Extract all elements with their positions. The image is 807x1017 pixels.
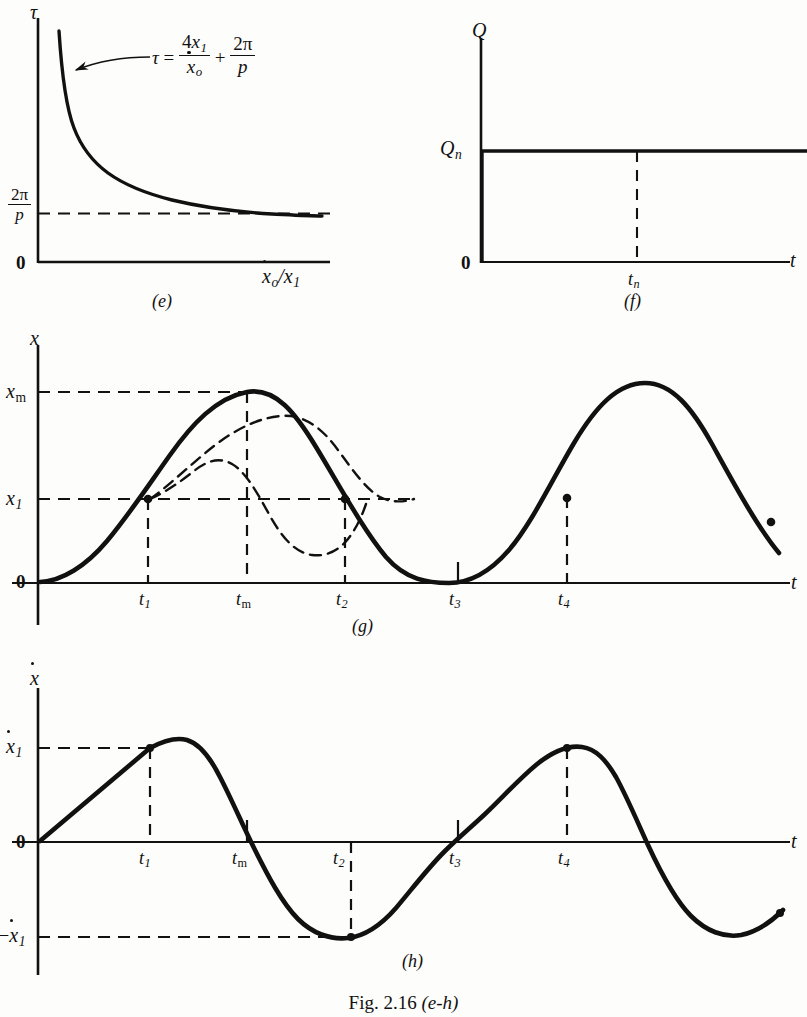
panel-f-step-curve bbox=[482, 151, 807, 262]
panel-g-marker-t2 bbox=[341, 495, 350, 504]
panel-g-xtick-t3: t3 bbox=[449, 590, 461, 611]
panel-g-marker-late bbox=[767, 518, 776, 527]
panel-h-ytick-xdot1: x1 bbox=[6, 736, 22, 759]
panel-g-main-curve bbox=[40, 383, 779, 583]
figure-caption: Fig. 2.16 (e-h) bbox=[0, 992, 807, 1014]
panel-e-caption: (e) bbox=[152, 292, 172, 310]
panel-f-x-axis-label: t bbox=[790, 250, 796, 270]
panel-e-annotation-arrow bbox=[76, 57, 150, 70]
panel-h-xtick-t2: t2 bbox=[333, 849, 345, 870]
panel-f-origin-label: 0 bbox=[461, 253, 471, 272]
panel-g-xtick-tm: tm bbox=[236, 590, 251, 611]
panel-h-marker-t4 bbox=[563, 744, 571, 752]
panel-e-ytick-two-pi-over-p: 2π p bbox=[8, 186, 31, 224]
panel-h-ytick-neg-xdot1: −x1 bbox=[0, 925, 25, 948]
panel-h-marker-t1 bbox=[146, 744, 154, 752]
panel-g-ytick-x1: x1 bbox=[6, 488, 22, 511]
panel-g-x-axis-label: t bbox=[791, 572, 797, 592]
panel-g-origin-label: 0 bbox=[16, 572, 26, 591]
panel-e-equation-annotation: τ = 4x1 xo + 2π p bbox=[152, 32, 255, 79]
panel-g-marker-t4 bbox=[563, 494, 572, 503]
panel-h-xtick-t1: t1 bbox=[139, 849, 151, 870]
panel-e-origin-label: 0 bbox=[16, 253, 26, 272]
panel-e-y-axis-label: τ bbox=[30, 2, 37, 22]
panel-f-y-axis-label: Q bbox=[472, 20, 486, 40]
panel-f-graphics bbox=[481, 38, 807, 263]
panel-g-marker-t1 bbox=[144, 495, 153, 504]
panel-h-x-axis-label: t bbox=[791, 831, 797, 851]
panel-g-xtick-t1: t1 bbox=[139, 590, 151, 611]
panel-g-xtick-t4: t4 bbox=[558, 590, 570, 611]
panel-h-y-axis-label: x bbox=[30, 668, 39, 688]
panel-h-marker-t2 bbox=[347, 933, 355, 941]
panel-e-x-axis-label: xo/x1 bbox=[262, 266, 300, 289]
panel-h-xtick-t3: t3 bbox=[449, 849, 461, 870]
panel-h-velocity-curve bbox=[40, 739, 783, 938]
panel-g-caption: (g) bbox=[352, 617, 373, 635]
panel-g-ytick-xm: xm bbox=[6, 381, 26, 404]
panel-f-ytick-Qn: Qn bbox=[440, 138, 462, 161]
panel-h-xtick-tm: tm bbox=[232, 849, 247, 870]
panel-f-caption: (f) bbox=[624, 292, 641, 310]
figure-graphics bbox=[0, 0, 807, 1017]
figure-root: τ xo/x1 2π p 0 τ = 4x1 xo + 2π p (e) Q t bbox=[0, 0, 807, 1017]
panel-h-origin-label: 0 bbox=[16, 832, 26, 851]
panel-h-caption: (h) bbox=[402, 952, 423, 970]
panel-h-xtick-t4: t4 bbox=[558, 849, 570, 870]
panel-f-xtick-tn: tn bbox=[628, 270, 640, 291]
panel-g-graphics bbox=[12, 345, 790, 625]
panel-h-graphics bbox=[12, 688, 790, 975]
panel-g-xtick-t2: t2 bbox=[336, 590, 348, 611]
panel-g-y-axis-label: x bbox=[30, 328, 39, 348]
panel-h-marker-late bbox=[776, 909, 784, 917]
